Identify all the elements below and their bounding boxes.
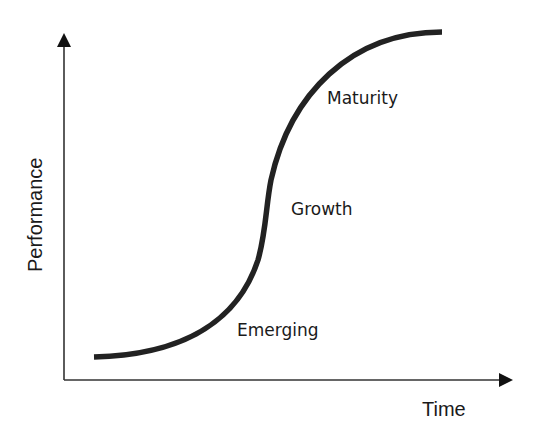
- s-curve-line: [94, 32, 442, 357]
- x-axis-label: Time: [422, 398, 466, 421]
- phase-label-emerging: Emerging: [237, 320, 319, 340]
- y-axis-label: Performance: [24, 158, 47, 273]
- phase-label-growth: Growth: [291, 199, 353, 219]
- phase-label-maturity: Maturity: [327, 88, 398, 108]
- y-axis-arrow-icon: [57, 33, 71, 47]
- s-curve-diagram: [0, 0, 542, 441]
- x-axis-arrow-icon: [499, 373, 513, 387]
